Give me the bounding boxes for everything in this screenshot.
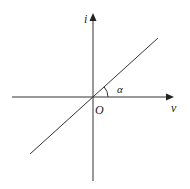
angle-arc [104,87,108,97]
iv-diagram: i v O α [0,0,190,189]
x-axis-label: v [171,101,177,115]
angle-label: α [117,83,123,95]
iv-line [30,38,158,154]
origin-label: O [95,103,104,117]
y-axis-arrow-icon [90,13,97,21]
x-axis-arrow-icon [166,94,174,101]
y-axis-label: i [84,12,87,26]
